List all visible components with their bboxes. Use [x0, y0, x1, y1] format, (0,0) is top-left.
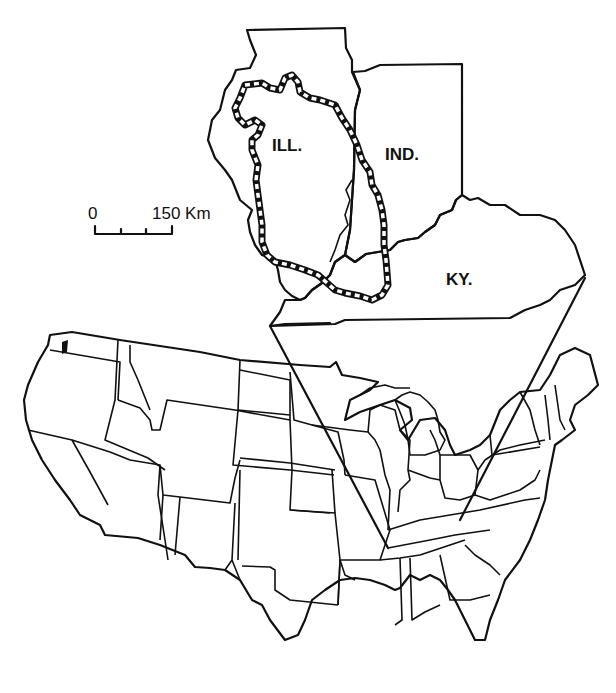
scale-bar: 0 150 Km: [88, 204, 211, 234]
callout-line-left: [270, 326, 388, 548]
label-indiana: IND.: [385, 145, 419, 164]
illinois-interior-boundary: [330, 180, 352, 262]
puget-sound: [62, 340, 68, 354]
upper-peninsula: [360, 385, 410, 395]
us-map: [24, 332, 598, 640]
label-kentucky: KY.: [446, 270, 472, 289]
scale-end-label: 150 Km: [152, 204, 211, 223]
map-figure: ILL. IND. KY. 0 150 Km: [0, 0, 616, 693]
state-boundaries: [28, 340, 565, 625]
kentucky-outline: [270, 195, 585, 326]
scale-start-label: 0: [88, 204, 97, 223]
scale-bar-line: [95, 226, 172, 234]
highlighted-region-boundary: [235, 75, 388, 300]
us-outline: [24, 332, 598, 640]
callout-line-right: [460, 278, 585, 520]
label-illinois: ILL.: [272, 136, 302, 155]
inset-map: ILL. IND. KY.: [208, 28, 585, 326]
